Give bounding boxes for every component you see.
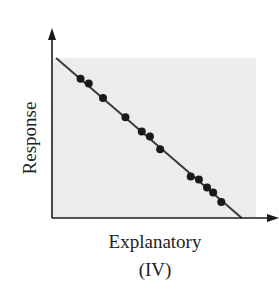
- data-point: [85, 80, 93, 88]
- data-point: [187, 172, 195, 180]
- data-point: [195, 176, 203, 184]
- data-point: [146, 132, 154, 140]
- data-point: [156, 145, 164, 153]
- scatter-chart: Response Explanatory (IV): [0, 0, 279, 289]
- data-point: [138, 128, 146, 136]
- x-axis-label: Explanatory: [109, 231, 202, 252]
- x-axis-arrow-icon: [267, 214, 279, 222]
- data-point: [121, 113, 129, 121]
- panel-label: (IV): [139, 259, 172, 281]
- data-point: [99, 94, 107, 102]
- data-point: [217, 198, 225, 206]
- y-axis-arrow-icon: [48, 28, 56, 40]
- y-axis-label: Response: [19, 102, 40, 175]
- data-point: [209, 188, 217, 196]
- data-point: [77, 75, 85, 83]
